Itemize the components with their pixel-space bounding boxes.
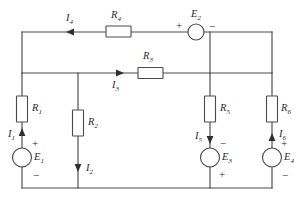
current-i4-label: I4 <box>66 13 73 26</box>
source-e4-plus-sign: + <box>281 138 287 149</box>
current-i5-label: I5 <box>195 131 202 144</box>
source-e4-symbol <box>263 148 282 167</box>
resistor-r5-body <box>205 96 216 122</box>
current-i4-arrowhead <box>66 29 74 36</box>
source-e2-symbol <box>188 24 204 40</box>
current-i1-label: I1 <box>8 129 15 142</box>
current-i2-label: I2 <box>86 163 93 176</box>
current-i3-label: I3 <box>112 80 119 93</box>
resistor-r4-body <box>106 26 131 37</box>
source-e1-label: E1 <box>34 152 44 165</box>
circuit-diagram: R4 R3 R1 R2 R5 R6 E2 E1 E3 E4 I4 I3 I1 I… <box>0 0 298 203</box>
source-e1-minus-sign: − <box>33 170 39 181</box>
current-i2-arrowhead <box>75 164 82 172</box>
resistor-r6-body <box>267 96 278 122</box>
source-e2-plus-sign: + <box>176 20 182 31</box>
source-e2-minus-sign: − <box>209 21 215 32</box>
resistor-r3-body <box>138 68 163 79</box>
source-e4-minus-sign: − <box>282 170 288 181</box>
source-e3-minus-sign: − <box>220 138 226 149</box>
resistor-r2-body <box>73 110 84 136</box>
source-e1-plus-sign: + <box>32 138 38 149</box>
source-e3-label: E3 <box>222 152 232 165</box>
source-e3-symbol <box>201 148 220 167</box>
resistor-r4-label: R4 <box>111 10 121 23</box>
circuit-schematic-canvas <box>0 0 298 203</box>
resistor-r6-label: R6 <box>281 103 291 116</box>
resistor-r3-label: R3 <box>143 51 153 64</box>
current-i3-arrowhead <box>116 70 124 77</box>
current-i1-arrowhead <box>19 128 26 136</box>
current-i6-arrowhead <box>269 133 276 141</box>
source-e1-symbol <box>13 148 32 167</box>
resistor-r1-body <box>17 96 28 122</box>
resistor-r1-label: R1 <box>32 103 42 116</box>
resistor-r2-label: R2 <box>88 117 98 130</box>
source-e2-label: E2 <box>191 9 201 22</box>
source-e3-plus-sign: + <box>219 169 225 180</box>
resistor-r5-label: R5 <box>220 103 230 116</box>
source-e4-label: E4 <box>284 152 294 165</box>
current-i5-arrowhead <box>207 136 214 144</box>
